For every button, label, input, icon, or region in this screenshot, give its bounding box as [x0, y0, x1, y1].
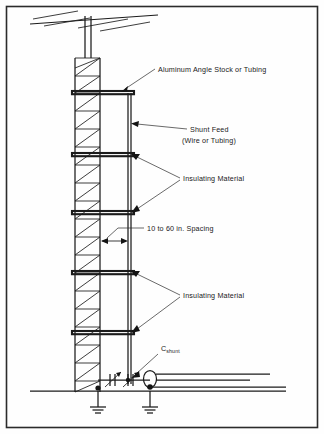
- rail-5: [72, 331, 134, 334]
- leader-shunt-feed: [131, 121, 187, 129]
- antenna-mast: [85, 16, 91, 58]
- label-aluminum-angle-stock: Aluminum Angle Stock or Tubing: [158, 65, 266, 74]
- label-shunt-feed-line1: Shunt Feed: [190, 125, 229, 134]
- tower-girts: [75, 58, 100, 381]
- shunt-feed-conductor: [128, 93, 131, 384]
- tower-structure: [75, 58, 100, 392]
- label-insulating-material-upper: Insulating Material: [183, 174, 244, 183]
- label-c-shunt: Cshunt: [161, 344, 180, 354]
- insulator-standoff-rails: [72, 91, 134, 334]
- figure-page: Aluminum Angle Stock or Tubing Shunt Fee…: [0, 0, 324, 434]
- leader-insulating-lower: [131, 271, 180, 333]
- antenna-element-4: [100, 22, 150, 31]
- ground-symbol-coax: [142, 391, 158, 413]
- leader-insulating-upper: [131, 154, 180, 213]
- leader-spacing-dimension: [101, 228, 144, 244]
- antenna-element-1: [33, 11, 78, 19]
- tower-diagonal-braces: [75, 58, 100, 392]
- label-shunt-feed-line2: (Wire or Tubing): [182, 136, 236, 145]
- rail-2: [72, 153, 134, 156]
- base-feed-network: [95, 371, 286, 391]
- leader-aluminum-angle-stock: [121, 69, 155, 92]
- antenna-diagram: Aluminum Angle Stock or Tubing Shunt Fee…: [0, 0, 324, 434]
- yagi-antenna: [30, 11, 158, 31]
- ground-symbol-tower: [90, 391, 106, 413]
- label-insulating-material-lower: Insulating Material: [183, 291, 244, 300]
- label-spacing-dimension: 10 to 60 in. Spacing: [147, 224, 214, 233]
- rail-3: [72, 211, 134, 214]
- c-shunt-subscript: shunt: [166, 348, 180, 354]
